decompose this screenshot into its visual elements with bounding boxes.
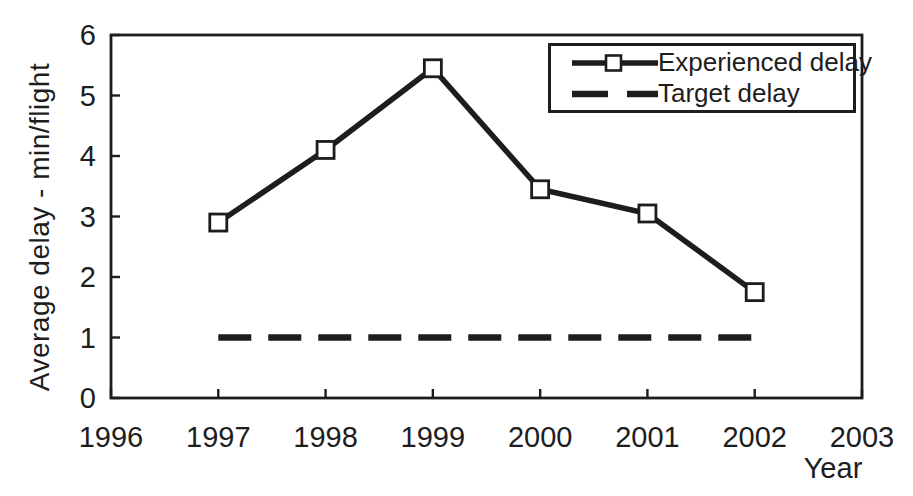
legend-item-target-delay: Target delay xyxy=(572,80,853,108)
experienced-delay-marker xyxy=(639,205,656,222)
y-tick-label: 5 xyxy=(80,80,96,112)
legend-label-target-delay: Target delay xyxy=(658,78,800,109)
y-tick-label: 1 xyxy=(80,322,96,354)
x-tick-label: 2001 xyxy=(615,421,680,453)
dashed-line-sample-icon xyxy=(572,83,658,105)
x-axis-title: Year xyxy=(795,452,871,485)
x-tick-label: 2003 xyxy=(830,421,895,453)
x-tick-label: 1997 xyxy=(186,421,251,453)
experienced-delay-marker xyxy=(317,141,334,158)
experienced-delay-marker xyxy=(532,181,549,198)
experienced-delay-marker xyxy=(746,284,763,301)
y-tick-label: 3 xyxy=(80,201,96,233)
y-tick-label: 0 xyxy=(80,382,96,414)
y-axis-title: Average delay - min/flight xyxy=(24,27,56,427)
legend-label-experienced-delay: Experienced delay xyxy=(658,47,872,78)
x-tick-label: 1999 xyxy=(401,421,466,453)
experienced-delay-marker xyxy=(210,214,227,231)
solid-line-marker-sample-icon xyxy=(572,52,658,74)
legend-item-experienced-delay: Experienced delay xyxy=(572,49,853,77)
x-tick-label: 2002 xyxy=(722,421,787,453)
y-tick-label: 4 xyxy=(80,140,96,172)
legend: Experienced delay Target delay xyxy=(548,43,856,113)
x-tick-label: 1998 xyxy=(293,421,358,453)
x-tick-label: 2000 xyxy=(508,421,573,453)
chart-figure: 012345619961997199819992000200120022003 … xyxy=(0,0,913,496)
x-tick-label: 1996 xyxy=(79,421,144,453)
y-tick-label: 6 xyxy=(80,19,96,51)
experienced-delay-marker xyxy=(424,60,441,77)
y-tick-label: 2 xyxy=(80,261,96,293)
